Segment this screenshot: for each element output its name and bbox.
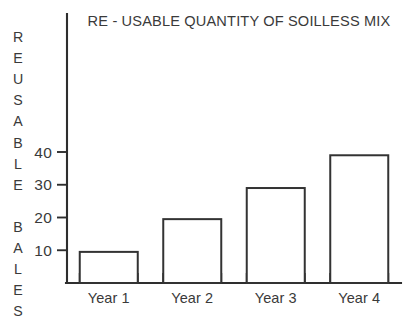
- bar-series: [80, 155, 389, 283]
- y-axis-label-char: E: [13, 282, 22, 298]
- bar: [163, 219, 221, 283]
- y-axis-label-char: L: [14, 261, 22, 277]
- y-axis-label-char: S: [13, 303, 22, 319]
- y-tick-label: 40: [34, 144, 52, 161]
- chart-canvas: RE - USABLE QUANTITY OF SOILLESS MIX REU…: [0, 0, 407, 329]
- y-axis-label-char: A: [13, 240, 23, 256]
- y-tick-label: 20: [34, 209, 52, 226]
- y-axis-ticks: 10203040: [34, 144, 67, 259]
- x-axis-category-label: Year 3: [255, 290, 297, 306]
- x-axis-category-labels: Year 1Year 2Year 3Year 4: [88, 290, 381, 306]
- y-axis-label-char: B: [13, 135, 22, 151]
- y-axis-label-char: R: [13, 29, 23, 45]
- bar: [330, 155, 388, 283]
- x-axis-category-label: Year 2: [171, 290, 213, 306]
- chart-title: RE - USABLE QUANTITY OF SOILLESS MIX: [88, 13, 391, 29]
- bar: [80, 252, 138, 283]
- x-axis-category-label: Year 1: [88, 290, 130, 306]
- bar-chart: RE - USABLE QUANTITY OF SOILLESS MIX REU…: [0, 0, 407, 329]
- y-tick-label: 30: [34, 176, 52, 193]
- y-axis-label-char: A: [13, 113, 23, 129]
- y-axis-label-char: E: [13, 177, 22, 193]
- y-axis-label: REUSABLEBALES: [13, 29, 23, 319]
- y-tick-label: 10: [34, 242, 52, 259]
- x-axis-category-label: Year 4: [338, 290, 380, 306]
- y-axis-label-char: U: [13, 71, 23, 87]
- y-axis-label-char: L: [14, 156, 22, 172]
- bar: [247, 188, 305, 283]
- y-axis-label-char: B: [13, 219, 22, 235]
- y-axis-label-char: S: [13, 92, 22, 108]
- y-axis-label-char: E: [13, 50, 22, 66]
